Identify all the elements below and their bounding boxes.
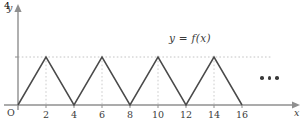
plot-canvas [0, 0, 304, 124]
function-equation-label: y = f(x) [169, 33, 211, 44]
origin-label: O [7, 108, 15, 118]
continuation-ellipsis-icon [260, 76, 279, 80]
function-curve [18, 57, 242, 105]
x-tick-label-16: 16 [236, 110, 248, 120]
x-tick-label-10: 10 [152, 110, 164, 120]
x-tick-label-8: 8 [127, 110, 133, 120]
y-axis-label: y [7, 3, 12, 13]
x-tick-label-6: 6 [99, 110, 105, 120]
x-axis-label: x [294, 108, 299, 118]
function-graph-figure: y x O 4 2 4 6 8 10 12 14 16 y = f(x) [0, 0, 304, 124]
x-tick-label-12: 12 [180, 110, 192, 120]
x-tick-label-2: 2 [43, 110, 49, 120]
x-tick-label-4: 4 [71, 110, 77, 120]
x-tick-label-14: 14 [208, 110, 220, 120]
y-axis-arrowhead [14, 4, 21, 12]
